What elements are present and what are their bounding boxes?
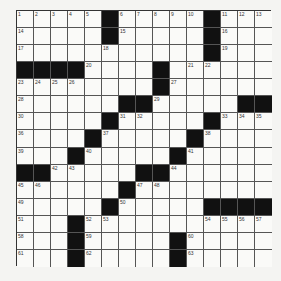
grid-cell[interactable] bbox=[170, 28, 187, 45]
grid-cell[interactable] bbox=[34, 113, 51, 130]
grid-cell[interactable] bbox=[238, 148, 255, 165]
grid-cell[interactable]: 57 bbox=[255, 216, 272, 233]
grid-cell[interactable] bbox=[136, 28, 153, 45]
grid-cell[interactable] bbox=[221, 79, 238, 96]
grid-cell[interactable]: 21 bbox=[187, 62, 204, 79]
grid-cell[interactable] bbox=[119, 250, 136, 267]
grid-cell[interactable]: 55 bbox=[221, 216, 238, 233]
grid-cell[interactable]: 32 bbox=[136, 113, 153, 130]
grid-cell[interactable] bbox=[238, 45, 255, 62]
grid-cell[interactable] bbox=[238, 165, 255, 182]
grid-cell[interactable] bbox=[68, 113, 85, 130]
grid-cell[interactable] bbox=[204, 165, 221, 182]
grid-cell[interactable]: 62 bbox=[85, 250, 102, 267]
grid-cell[interactable] bbox=[255, 79, 272, 96]
grid-cell[interactable] bbox=[187, 182, 204, 199]
grid-cell[interactable]: 19 bbox=[221, 45, 238, 62]
grid-cell[interactable]: 15 bbox=[119, 28, 136, 45]
grid-cell[interactable] bbox=[204, 148, 221, 165]
grid-cell[interactable] bbox=[85, 96, 102, 113]
grid-cell[interactable] bbox=[187, 216, 204, 233]
grid-cell[interactable] bbox=[51, 148, 68, 165]
grid-cell[interactable]: 52 bbox=[85, 216, 102, 233]
grid-cell[interactable]: 50 bbox=[119, 199, 136, 216]
grid-cell[interactable] bbox=[102, 96, 119, 113]
grid-cell[interactable] bbox=[119, 216, 136, 233]
grid-cell[interactable] bbox=[51, 28, 68, 45]
grid-cell[interactable] bbox=[51, 233, 68, 250]
grid-cell[interactable] bbox=[102, 250, 119, 267]
grid-cell[interactable] bbox=[34, 216, 51, 233]
grid-cell[interactable]: 14 bbox=[17, 28, 34, 45]
grid-cell[interactable] bbox=[119, 148, 136, 165]
grid-cell[interactable]: 1 bbox=[17, 11, 34, 28]
grid-cell[interactable]: 54 bbox=[204, 216, 221, 233]
grid-cell[interactable] bbox=[119, 45, 136, 62]
grid-cell[interactable]: 46 bbox=[34, 182, 51, 199]
grid-cell[interactable] bbox=[51, 130, 68, 147]
grid-cell[interactable] bbox=[204, 233, 221, 250]
grid-cell[interactable] bbox=[221, 182, 238, 199]
grid-cell[interactable] bbox=[221, 165, 238, 182]
grid-cell[interactable] bbox=[51, 199, 68, 216]
grid-cell[interactable] bbox=[34, 45, 51, 62]
grid-cell[interactable] bbox=[255, 130, 272, 147]
grid-cell[interactable] bbox=[221, 250, 238, 267]
grid-cell[interactable] bbox=[85, 113, 102, 130]
grid-cell[interactable]: 30 bbox=[17, 113, 34, 130]
grid-cell[interactable] bbox=[102, 79, 119, 96]
grid-cell[interactable] bbox=[204, 182, 221, 199]
grid-cell[interactable] bbox=[85, 28, 102, 45]
grid-cell[interactable]: 16 bbox=[221, 28, 238, 45]
grid-cell[interactable] bbox=[238, 233, 255, 250]
grid-cell[interactable] bbox=[102, 62, 119, 79]
grid-cell[interactable] bbox=[153, 216, 170, 233]
grid-cell[interactable] bbox=[136, 79, 153, 96]
grid-cell[interactable] bbox=[34, 130, 51, 147]
grid-cell[interactable] bbox=[136, 62, 153, 79]
grid-cell[interactable] bbox=[102, 165, 119, 182]
grid-cell[interactable] bbox=[170, 96, 187, 113]
grid-cell[interactable] bbox=[51, 216, 68, 233]
grid-cell[interactable]: 25 bbox=[51, 79, 68, 96]
grid-cell[interactable]: 48 bbox=[153, 182, 170, 199]
grid-cell[interactable]: 41 bbox=[187, 148, 204, 165]
grid-cell[interactable]: 17 bbox=[17, 45, 34, 62]
grid-cell[interactable]: 37 bbox=[102, 130, 119, 147]
grid-cell[interactable] bbox=[136, 45, 153, 62]
grid-cell[interactable]: 45 bbox=[17, 182, 34, 199]
grid-cell[interactable]: 58 bbox=[17, 233, 34, 250]
grid-cell[interactable] bbox=[153, 45, 170, 62]
grid-cell[interactable] bbox=[255, 62, 272, 79]
grid-cell[interactable] bbox=[204, 79, 221, 96]
grid-cell[interactable]: 38 bbox=[204, 130, 221, 147]
grid-cell[interactable] bbox=[187, 199, 204, 216]
grid-cell[interactable] bbox=[153, 148, 170, 165]
grid-cell[interactable] bbox=[51, 182, 68, 199]
grid-cell[interactable] bbox=[34, 233, 51, 250]
grid-cell[interactable] bbox=[238, 182, 255, 199]
grid-cell[interactable] bbox=[119, 130, 136, 147]
grid-cell[interactable] bbox=[119, 165, 136, 182]
grid-cell[interactable]: 29 bbox=[153, 96, 170, 113]
grid-cell[interactable] bbox=[153, 250, 170, 267]
grid-cell[interactable]: 22 bbox=[204, 62, 221, 79]
grid-cell[interactable] bbox=[238, 62, 255, 79]
grid-cell[interactable]: 27 bbox=[170, 79, 187, 96]
grid-cell[interactable] bbox=[51, 45, 68, 62]
grid-cell[interactable] bbox=[255, 165, 272, 182]
grid-cell[interactable] bbox=[85, 45, 102, 62]
grid-cell[interactable]: 12 bbox=[238, 11, 255, 28]
grid-cell[interactable] bbox=[119, 233, 136, 250]
grid-cell[interactable] bbox=[119, 62, 136, 79]
grid-cell[interactable] bbox=[170, 45, 187, 62]
grid-cell[interactable]: 53 bbox=[102, 216, 119, 233]
grid-cell[interactable] bbox=[34, 148, 51, 165]
grid-cell[interactable] bbox=[170, 216, 187, 233]
grid-cell[interactable] bbox=[68, 199, 85, 216]
grid-cell[interactable] bbox=[187, 96, 204, 113]
grid-cell[interactable] bbox=[85, 182, 102, 199]
grid-cell[interactable] bbox=[153, 113, 170, 130]
grid-cell[interactable] bbox=[187, 28, 204, 45]
grid-cell[interactable] bbox=[85, 165, 102, 182]
